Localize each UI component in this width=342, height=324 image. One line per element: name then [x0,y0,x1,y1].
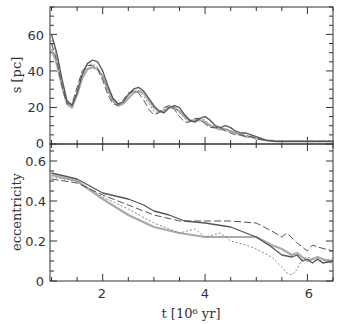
xlabel: t [10⁶ yr] [162,306,221,321]
bottom-ytick-0.4: 0.4 [25,194,46,209]
bottom-ytick-0.2: 0.2 [25,234,46,249]
series-dotted-gray [52,177,334,275]
top-ylabel: s [pc] [9,57,24,94]
series-dotted-gray [52,40,334,141]
xtick-2: 2 [98,286,106,301]
bottom-panel-frame [50,144,333,281]
xtick-6: 6 [305,286,313,301]
figure: 60 40 20 0 0.6 0.4 0.2 0 2 4 6 s [pc] ec… [0,0,342,324]
top-panel-lines [52,34,334,141]
xtick-4: 4 [201,286,209,301]
top-panel-frame [50,7,333,144]
top-ytick-20: 20 [27,100,44,115]
series-dashed-dark [52,179,334,251]
bottom-panel-lines [52,173,334,275]
top-ytick-60: 60 [27,28,44,43]
series-solid-dark [52,34,334,141]
series-solid-dark [52,173,334,263]
bottom-ytick-0.6: 0.6 [25,154,46,169]
series-dashed-dark [52,44,334,142]
bottom-ytick-0: 0 [36,274,44,289]
bottom-ylabel: eccentricity [9,172,24,251]
series-solid-light [52,49,334,141]
top-ytick-0: 0 [36,136,44,151]
top-ytick-40: 40 [27,64,44,79]
